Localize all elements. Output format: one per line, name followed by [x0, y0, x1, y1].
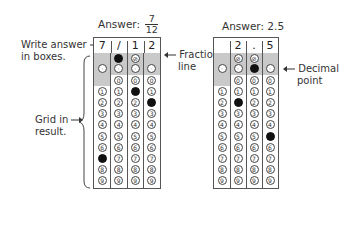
answer-box[interactable]: 1 [127, 38, 144, 53]
digit-bubble[interactable]: 5 [266, 132, 275, 141]
digit-bubble[interactable]: 1 [266, 87, 275, 96]
answer-box[interactable]: 7 [94, 38, 111, 53]
digit-bubble[interactable]: 2 [114, 98, 123, 107]
digit-bubble[interactable]: 4 [250, 120, 259, 129]
digit-bubble[interactable]: 7 [218, 154, 227, 163]
digit-bubble[interactable]: 8 [114, 165, 123, 174]
digit-bubble[interactable]: 8 [266, 165, 275, 174]
digit-bubble[interactable]: 6 [218, 143, 227, 152]
digit-bubble[interactable]: 6 [234, 143, 243, 152]
answer-box[interactable]: 2 [230, 38, 246, 53]
decimal-bubble[interactable]: · [250, 64, 259, 73]
digit-bubble[interactable]: 0 [147, 76, 156, 85]
digit-bubble[interactable]: 2 [218, 98, 227, 107]
digit-bubble[interactable]: 7 [266, 154, 275, 163]
digit-bubble[interactable]: 2 [266, 98, 275, 107]
digit-bubble[interactable]: 0 [114, 76, 123, 85]
digit-bubble[interactable]: 0 [234, 76, 243, 85]
digit-bubble[interactable]: 8 [147, 165, 156, 174]
digit-bubble[interactable]: 7 [250, 154, 259, 163]
point-label: point [297, 75, 323, 87]
digit-bubble[interactable]: 5 [131, 132, 140, 141]
digit-bubble[interactable]: 4 [98, 120, 107, 129]
digit-bubble[interactable]: 4 [234, 120, 243, 129]
digit-bubble[interactable]: 7 [234, 154, 243, 163]
digit-bubble[interactable]: 3 [234, 109, 243, 118]
digit-bubble[interactable]: 9 [218, 176, 227, 185]
digit-bubble[interactable]: 4 [266, 120, 275, 129]
digit-bubble[interactable]: 3 [98, 109, 107, 118]
digit-bubble[interactable]: 7 [98, 154, 107, 163]
digit-bubble[interactable]: 6 [147, 143, 156, 152]
digit-bubble[interactable]: 9 [250, 176, 259, 185]
line-label: line [178, 61, 196, 73]
digit-bubble[interactable]: 9 [98, 176, 107, 185]
digit-bubble[interactable]: 3 [114, 109, 123, 118]
digit-bubble[interactable]: 6 [266, 143, 275, 152]
digit-bubble[interactable]: 8 [131, 165, 140, 174]
digit-bubble[interactable]: 4 [114, 120, 123, 129]
answer-box[interactable] [214, 38, 230, 53]
digit-bubble[interactable]: 3 [147, 109, 156, 118]
digit-bubble[interactable]: 3 [250, 109, 259, 118]
digit-bubble[interactable]: 5 [147, 132, 156, 141]
digit-bubble[interactable]: 1 [147, 87, 156, 96]
digit-bubble[interactable]: 9 [266, 176, 275, 185]
digit-bubble[interactable]: 8 [250, 165, 259, 174]
digit-bubble[interactable]: 3 [266, 109, 275, 118]
answer-box[interactable]: . [246, 38, 262, 53]
digit-bubble[interactable]: 5 [234, 132, 243, 141]
digit-bubble[interactable]: 6 [250, 143, 259, 152]
digit-bubble[interactable]: 3 [218, 109, 227, 118]
digit-bubble[interactable]: 2 [98, 98, 107, 107]
digit-bubble[interactable]: 7 [114, 154, 123, 163]
digit-bubble[interactable]: 5 [250, 132, 259, 141]
digit-bubble[interactable]: 9 [234, 176, 243, 185]
digit-bubble[interactable]: 9 [131, 176, 140, 185]
digit-bubble[interactable]: 1 [218, 87, 227, 96]
digit-bubble[interactable]: 1 [250, 87, 259, 96]
decimal-bubble[interactable]: · [218, 64, 227, 73]
digit-bubble[interactable]: 5 [218, 132, 227, 141]
digit-bubble[interactable]: 5 [98, 132, 107, 141]
digit-bubble[interactable]: 0 [266, 76, 275, 85]
answer-boxes-row: 7/12 [94, 38, 160, 54]
digit-bubble[interactable]: 4 [131, 120, 140, 129]
digit-bubble[interactable]: 2 [147, 98, 156, 107]
write-answer-label: Write answer [21, 39, 104, 51]
digit-bubble[interactable]: 0 [131, 76, 140, 85]
digit-bubble[interactable]: 1 [114, 87, 123, 96]
digit-bubble[interactable]: 4 [147, 120, 156, 129]
fraction-bubble[interactable]: ⊘ [234, 54, 243, 63]
digit-bubble[interactable]: 1 [131, 87, 140, 96]
digit-bubble[interactable]: 5 [114, 132, 123, 141]
digit-bubble[interactable]: 8 [98, 165, 107, 174]
digit-bubble[interactable]: 2 [131, 98, 140, 107]
digit-bubble[interactable]: 6 [98, 143, 107, 152]
digit-bubble[interactable]: 1 [234, 87, 243, 96]
decimal-bubble[interactable]: · [234, 64, 243, 73]
digit-bubble[interactable]: 6 [131, 143, 140, 152]
answer-box[interactable]: / [111, 38, 128, 53]
digit-bubble[interactable]: 7 [147, 154, 156, 163]
digit-bubble[interactable]: 8 [234, 165, 243, 174]
digit-bubble[interactable]: 1 [98, 87, 107, 96]
answer-boxes-row: 2.5 [214, 38, 278, 54]
fraction-bubble[interactable]: ⊘ [250, 54, 259, 63]
decimal-bubble[interactable]: · [98, 64, 107, 73]
fraction-bubble[interactable]: ⊘ [131, 54, 140, 63]
digit-bubble[interactable]: 2 [250, 98, 259, 107]
digit-bubble[interactable]: 4 [218, 120, 227, 129]
digit-bubble[interactable]: 2 [234, 98, 243, 107]
digit-bubble[interactable]: 6 [114, 143, 123, 152]
digit-bubble[interactable]: 9 [147, 176, 156, 185]
answer-box[interactable]: 5 [262, 38, 278, 53]
decimal-bubble[interactable]: · [266, 64, 275, 73]
decimal-bubble[interactable]: · [131, 64, 140, 73]
digit-bubble[interactable]: 9 [114, 176, 123, 185]
digit-bubble[interactable]: 8 [218, 165, 227, 174]
digit-bubble[interactable]: 0 [250, 76, 259, 85]
answer-box[interactable]: 2 [144, 38, 161, 53]
digit-bubble[interactable]: 7 [131, 154, 140, 163]
digit-bubble[interactable]: 3 [131, 109, 140, 118]
